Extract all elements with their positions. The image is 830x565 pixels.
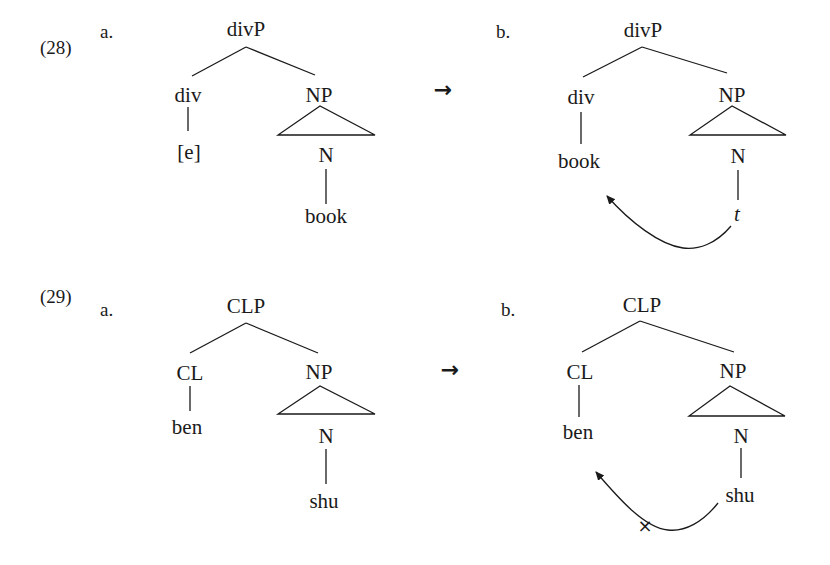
example-number: (29) bbox=[40, 287, 72, 306]
example-number: (28) bbox=[40, 38, 72, 57]
node-complement-word: book bbox=[305, 206, 347, 227]
sub-label-b: b. bbox=[496, 22, 510, 41]
tree-28a-branches bbox=[188, 47, 375, 204]
tree-28b-branches bbox=[581, 47, 786, 248]
node-head: div bbox=[175, 85, 202, 106]
transition-arrow-icon: → bbox=[434, 79, 452, 101]
node-head-content: ben bbox=[563, 422, 593, 443]
node-root: divP bbox=[624, 20, 663, 41]
node-complement-head: N bbox=[318, 145, 333, 166]
node-complement: NP bbox=[306, 85, 333, 106]
node-head: CL bbox=[177, 363, 204, 384]
transition-arrow-icon: → bbox=[441, 359, 459, 381]
sub-label-a: a. bbox=[100, 300, 113, 319]
node-complement: NP bbox=[719, 85, 746, 106]
node-head-content: book bbox=[558, 151, 600, 172]
node-trace: t bbox=[734, 204, 740, 225]
movement-arrow bbox=[607, 196, 731, 248]
node-head: CL bbox=[567, 362, 594, 383]
sub-label-a: a. bbox=[100, 22, 113, 41]
np-triangle bbox=[278, 386, 375, 414]
node-root: divP bbox=[227, 19, 266, 40]
node-head-content: [e] bbox=[177, 142, 200, 163]
node-head-content: ben bbox=[172, 417, 202, 438]
sub-label-b: b. bbox=[501, 300, 515, 319]
np-triangle bbox=[689, 386, 785, 416]
node-complement-head: N bbox=[730, 146, 745, 167]
node-complement: NP bbox=[720, 361, 747, 382]
node-head: div bbox=[568, 87, 595, 108]
node-complement-head: N bbox=[733, 426, 748, 447]
np-triangle bbox=[278, 106, 375, 135]
node-root: CLP bbox=[623, 295, 662, 316]
tree-branches bbox=[0, 0, 830, 565]
node-complement-word: shu bbox=[309, 491, 338, 512]
block-mark-icon: × bbox=[637, 517, 652, 535]
blocked-movement-arrow bbox=[596, 472, 718, 530]
node-complement-word: shu bbox=[725, 485, 754, 506]
np-triangle bbox=[690, 106, 786, 135]
tree-29a-branches bbox=[190, 323, 375, 484]
node-root: CLP bbox=[227, 296, 266, 317]
node-complement-head: N bbox=[318, 426, 333, 447]
node-complement: NP bbox=[306, 362, 333, 383]
